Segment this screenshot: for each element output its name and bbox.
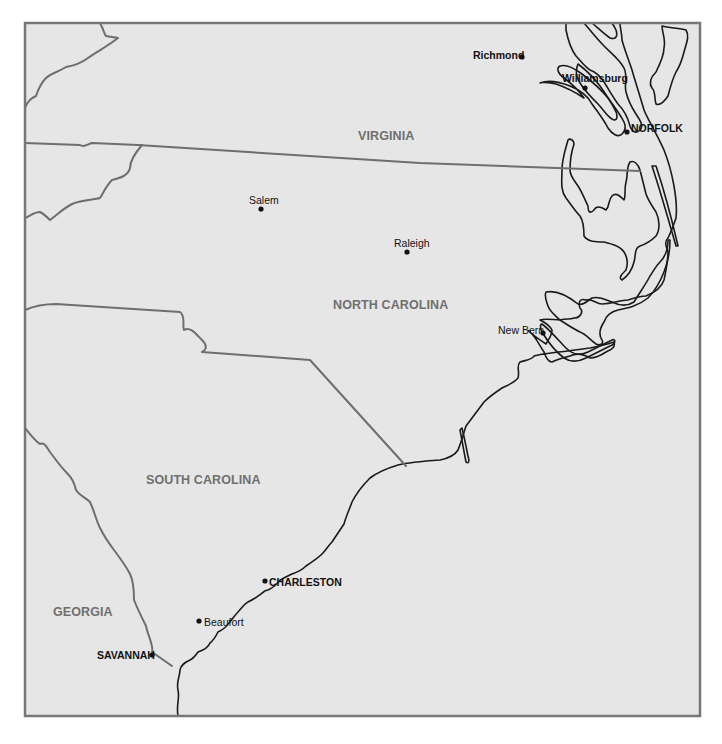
city-label-raleigh: Raleigh: [394, 237, 430, 249]
city-label-salem: Salem: [249, 194, 279, 206]
state-label-virginia: VIRGINIA: [358, 129, 414, 143]
city-new-bern: New Bern: [498, 324, 546, 336]
city-dot-icon: [196, 618, 201, 623]
city-dot-icon: [624, 129, 629, 134]
state-label-south-carolina: SOUTH CAROLINA: [146, 473, 261, 487]
city-label-williamsburg: Williamsburg: [562, 72, 628, 84]
map: VIRGINIA NORTH CAROLINA SOUTH CAROLINA G…: [0, 0, 722, 744]
land-area: [25, 23, 700, 716]
city-label-richmond: Richmond: [473, 49, 524, 61]
city-charleston: CHARLESTON: [262, 576, 341, 588]
city-label-charleston: CHARLESTON: [269, 576, 342, 588]
map-canvas: VIRGINIA NORTH CAROLINA SOUTH CAROLINA G…: [0, 0, 722, 744]
city-dot-icon: [262, 578, 267, 583]
city-label-new-bern: New Bern: [498, 324, 544, 336]
city-label-norfolk: NORFOLK: [631, 122, 683, 134]
city-savannah: SAVANNAH: [97, 649, 155, 661]
city-norfolk: NORFOLK: [624, 122, 683, 135]
city-beaufort: Beaufort: [196, 616, 243, 628]
city-label-beaufort: Beaufort: [204, 616, 244, 628]
state-label-georgia: GEORGIA: [53, 605, 113, 619]
city-richmond: Richmond: [473, 49, 525, 61]
city-dot-icon: [404, 249, 409, 254]
city-dot-icon: [258, 206, 263, 211]
city-dot-icon: [582, 85, 587, 90]
state-label-north-carolina: NORTH CAROLINA: [333, 298, 448, 312]
city-label-savannah: SAVANNAH: [97, 649, 155, 661]
